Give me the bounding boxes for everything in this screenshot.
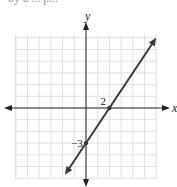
x-axis-label: x: [171, 101, 177, 115]
intercept-annotations: 2−3: [71, 95, 112, 149]
coordinate-plane-graph: x y 2−3: [0, 0, 177, 187]
y-intercept-point: [84, 141, 88, 145]
y-intercept-label: −3: [71, 137, 83, 149]
x-axis-left-arrow-icon: [4, 105, 12, 111]
y-axis-up-arrow-icon: [83, 22, 89, 30]
x-axis-right-arrow-icon: [162, 105, 170, 111]
y-axis-label: y: [84, 9, 91, 23]
x-intercept-label: 2: [100, 95, 106, 107]
axes: [4, 22, 170, 187]
y-axis-down-arrow-icon: [83, 179, 89, 187]
x-intercept-point: [107, 106, 111, 110]
